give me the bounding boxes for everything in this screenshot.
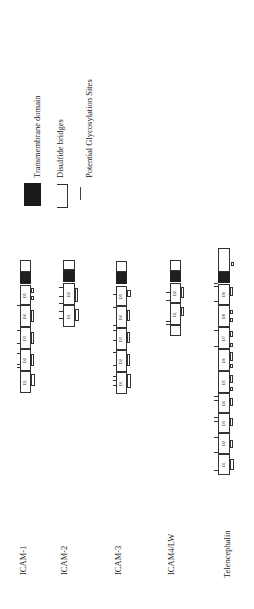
disulfide-legend-label: Disulfide bridges <box>55 119 65 178</box>
glycosylation-site <box>113 352 116 353</box>
glycosylation-site <box>59 318 63 319</box>
glycosylation-site <box>214 346 218 347</box>
cytoplasmic-tail <box>218 248 230 272</box>
transmembrane-domain <box>218 272 230 283</box>
glycosylation-site <box>113 307 116 308</box>
disulfide-bridge <box>127 332 130 343</box>
disulfide-bridge <box>230 318 233 322</box>
domain-d7: D7 <box>218 327 230 349</box>
glycosylation-site <box>214 470 218 471</box>
glycosylation-site <box>113 330 116 331</box>
label-icam-3: ICAM-3 <box>113 546 123 575</box>
label-telencephalin: Telencephalin <box>222 530 232 578</box>
glycosylation-site <box>113 340 116 341</box>
disulfide-legend-swatch <box>57 184 68 208</box>
disulfide-bridge <box>231 262 234 266</box>
glycosylation-site <box>59 311 63 312</box>
domain-d3: D3 <box>218 413 230 433</box>
disulfide-bridge <box>127 310 130 321</box>
disulfide-bridge <box>127 290 131 297</box>
glycosylation-site <box>17 364 20 365</box>
glycosylation-site <box>113 380 116 381</box>
disulfide-bridge <box>230 331 233 337</box>
domain-d2: D2 <box>218 433 230 454</box>
glycosylation-site <box>214 330 218 331</box>
disulfide-bridge <box>230 287 233 296</box>
disulfide-bridge <box>230 343 233 347</box>
disulfide-bridge <box>230 364 233 368</box>
disulfide-bridge <box>31 354 34 366</box>
cytoplasmic-tail <box>63 260 75 270</box>
disulfide-bridge <box>31 310 34 322</box>
transmembrane-domain <box>20 272 31 284</box>
domain-d6: D6 <box>218 349 230 371</box>
glycosylation-site <box>17 305 20 306</box>
glycosylation-site <box>166 300 170 301</box>
disulfide-bridge <box>230 418 233 426</box>
domain-d1: D1 <box>20 371 31 393</box>
domain-d4: D4 <box>218 393 230 413</box>
cytoplasmic-tail <box>170 260 181 271</box>
domain-d3: D3 <box>20 327 31 349</box>
glycosylation-site <box>214 437 218 438</box>
glycosylation-site <box>166 324 170 325</box>
glycosylation-site <box>214 400 218 401</box>
disulfide-bridge <box>31 332 34 344</box>
label-icam-2: ICAM-2 <box>59 546 69 575</box>
disulfide-bridge <box>75 309 79 321</box>
glycosylation-site <box>214 421 218 422</box>
label-icam-1: ICAM-1 <box>18 546 28 575</box>
domain-d1: D1 <box>218 454 230 475</box>
glycosylation-site <box>113 376 116 377</box>
glycosylation-site <box>17 343 20 344</box>
glycosylation-legend-label: Potential Glycosylation Sites <box>84 79 94 178</box>
disulfide-bridge <box>230 387 233 391</box>
cytoplasmic-tail <box>20 260 31 272</box>
domain-d4: D4 <box>116 306 127 328</box>
disulfide-bridge <box>127 374 131 388</box>
glycosylation-site <box>166 321 170 322</box>
disulfide-bridge <box>230 459 234 470</box>
domain-d2: D2 <box>170 283 181 303</box>
domain-d5: D5 <box>218 371 230 393</box>
glycosylation-site <box>59 287 63 288</box>
disulfide-bridge <box>230 352 233 361</box>
glycosylation-site <box>59 303 63 304</box>
disulfide-bridge <box>230 440 233 448</box>
label-icam4-lw: ICAM4/LW <box>166 534 176 575</box>
domain-d1: D1 <box>63 305 75 327</box>
glycosylation-site <box>113 365 116 366</box>
disulfide-bridge <box>127 354 130 366</box>
cytoplasmic-tail <box>116 261 127 272</box>
glycosylation-site <box>113 325 116 326</box>
domain-d5: D5 <box>116 286 127 306</box>
disulfide-bridge <box>230 310 233 314</box>
transmembrane-legend-label: Transmembrane domain <box>32 95 42 178</box>
disulfide-bridge <box>31 296 34 300</box>
disulfide-bridge <box>230 398 233 406</box>
glycosylation-site <box>214 301 218 302</box>
disulfide-bridge <box>230 375 233 383</box>
transmembrane-domain <box>116 272 127 284</box>
domain-d1: D1 <box>116 372 127 394</box>
disulfide-bridge <box>181 307 184 316</box>
transmembrane-legend-swatch <box>24 183 41 206</box>
glycosylation-site <box>17 353 20 354</box>
glycosylation-site <box>17 330 20 331</box>
glycosylation-site <box>214 396 218 397</box>
glycosylation-site <box>17 367 20 368</box>
glycosylation-site <box>113 385 116 386</box>
domain-d2: D2 <box>63 283 75 305</box>
glycosylation-site <box>214 283 218 284</box>
glycosylation-site <box>214 452 218 453</box>
glycosylation-site <box>59 296 63 297</box>
glycosylation-site <box>166 292 170 293</box>
membrane-stub <box>170 325 181 336</box>
disulfide-bridge <box>31 288 34 293</box>
domain-d4: D4 <box>20 305 31 327</box>
glycosylation-site <box>214 286 218 287</box>
domain-d3: D3 <box>116 328 127 350</box>
glycosylation-legend-swatch <box>80 187 81 200</box>
disulfide-bridge <box>75 288 78 302</box>
transmembrane-domain <box>170 271 181 282</box>
